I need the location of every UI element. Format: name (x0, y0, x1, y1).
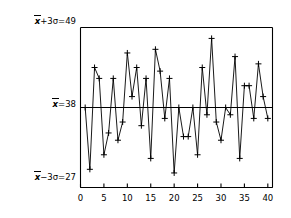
x-axis-ticks (81, 184, 268, 188)
series-line (85, 38, 268, 173)
data-point-marker (218, 137, 224, 143)
data-series (85, 38, 268, 173)
data-point-marker (176, 105, 182, 111)
data-point-marker (185, 134, 191, 140)
x-tick-label: 40 (256, 193, 280, 203)
data-point-marker (152, 46, 158, 52)
data-point-marker (204, 112, 210, 118)
data-point-marker (190, 105, 196, 111)
data-point-marker (110, 75, 116, 81)
data-point-marker (223, 105, 229, 111)
x-tick-label: 20 (162, 193, 186, 203)
data-point-marker (213, 119, 219, 125)
data-point-marker (157, 68, 163, 74)
data-point-marker (87, 166, 93, 172)
data-point-marker (209, 35, 215, 41)
data-point-marker (101, 152, 107, 158)
x-tick-label: 30 (209, 193, 233, 203)
data-point-marker (106, 130, 112, 136)
data-point-marker (120, 119, 126, 125)
data-point-marker (134, 65, 140, 71)
data-point-marker (124, 50, 130, 56)
data-markers (82, 35, 271, 176)
x-tick-label: 25 (186, 193, 210, 203)
data-point-marker (260, 94, 266, 100)
data-point-marker (82, 105, 88, 111)
data-point-marker (115, 137, 121, 143)
control-chart: x+3σ=49 x=38 x−3σ=27 0510152025303540 (0, 0, 291, 218)
data-point-marker (148, 155, 154, 161)
data-point-marker (96, 75, 102, 81)
data-point-marker (265, 115, 271, 121)
data-point-marker (129, 94, 135, 100)
data-point-marker (92, 65, 98, 71)
data-point-marker (143, 75, 149, 81)
data-point-marker (255, 61, 261, 67)
data-point-marker (237, 155, 243, 161)
data-point-marker (246, 83, 252, 89)
plot-area (0, 0, 291, 218)
data-point-marker (162, 115, 168, 121)
x-tick-label: 10 (115, 193, 139, 203)
data-point-marker (251, 115, 257, 121)
data-point-marker (227, 112, 233, 118)
x-tick-label: 35 (232, 193, 256, 203)
x-tick-label: 5 (92, 193, 116, 203)
x-tick-label: 0 (69, 193, 93, 203)
data-point-marker (171, 170, 177, 176)
data-point-marker (138, 123, 144, 129)
data-point-marker (166, 75, 172, 81)
data-point-marker (199, 65, 205, 71)
data-point-marker (232, 54, 238, 60)
x-tick-label: 15 (139, 193, 163, 203)
data-point-marker (195, 152, 201, 158)
